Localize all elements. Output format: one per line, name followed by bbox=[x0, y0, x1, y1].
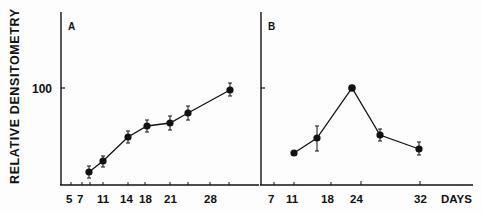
panel-b-x-tick-labels: 7 11 18 24 32 bbox=[268, 193, 427, 205]
x-axis-label-days: DAYS bbox=[441, 193, 472, 205]
tick-label: 11 bbox=[97, 193, 110, 205]
y-tick-label-100: 100 bbox=[32, 82, 52, 96]
tick-label: 24 bbox=[350, 193, 363, 205]
panel-b-label: B bbox=[268, 21, 275, 32]
panel-b-series-line bbox=[294, 88, 419, 153]
tick-label: 5 bbox=[66, 193, 73, 205]
densitometry-figure: RELATIVE DENSITOMETRY 100 A 5 7 11 14 18… bbox=[0, 0, 482, 212]
panel-a-error-bars bbox=[87, 83, 232, 178]
panel-a-series-line bbox=[89, 90, 230, 172]
tick-label: 18 bbox=[321, 193, 334, 205]
tick-label: 32 bbox=[414, 193, 427, 205]
y-axis-label: RELATIVE DENSITOMETRY bbox=[8, 8, 22, 184]
tick-label: 11 bbox=[286, 193, 299, 205]
panel-b-error-bars bbox=[315, 126, 421, 155]
tick-label: 7 bbox=[77, 193, 83, 205]
panel-a: 100 A 5 7 11 14 18 21 28 bbox=[32, 12, 259, 205]
tick-label: 14 bbox=[120, 193, 133, 205]
panel-a-x-tick-labels: 5 7 11 14 18 21 28 bbox=[66, 193, 217, 205]
tick-label: 28 bbox=[204, 193, 217, 205]
tick-label: 18 bbox=[139, 193, 152, 205]
tick-label: 7 bbox=[268, 193, 274, 205]
panel-a-label: A bbox=[68, 21, 75, 32]
tick-label: 21 bbox=[164, 193, 177, 205]
panel-b: B 7 11 18 24 32 DAYS bbox=[260, 12, 473, 205]
